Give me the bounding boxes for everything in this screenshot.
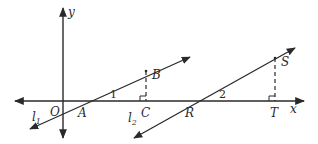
point-b-dot	[145, 70, 148, 73]
point-s-label: S	[281, 55, 289, 69]
right-angle-mark-c	[140, 96, 146, 101]
y-axis-label: y	[67, 5, 75, 19]
right-angle-mark-t	[269, 96, 275, 101]
origin-label: O	[50, 105, 60, 119]
line-l2	[134, 48, 295, 138]
point-r-label: R	[184, 106, 194, 120]
line-l1-label: l1	[32, 110, 41, 126]
angle-2-label: 2	[219, 88, 226, 101]
point-t-label: T	[270, 106, 279, 120]
line-l2-label: l2	[128, 111, 137, 127]
x-axis-label: x	[290, 102, 297, 116]
point-b-label: B	[151, 68, 161, 82]
coordinate-diagram: y x O A B C R S T 1 2 l1 l2	[0, 0, 318, 144]
line-l2-subscript: 2	[131, 118, 137, 127]
point-a-label: A	[77, 106, 87, 120]
angle-1-label: 1	[110, 88, 117, 101]
point-c-label: C	[141, 106, 150, 120]
line-l1-subscript: 1	[36, 117, 41, 126]
point-s-dot	[274, 57, 277, 60]
